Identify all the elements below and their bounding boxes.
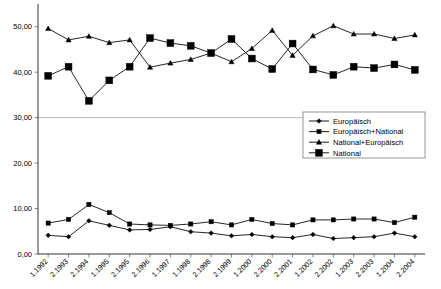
data-point-marker xyxy=(411,67,418,74)
y-tick-label: 0,00 xyxy=(17,250,32,259)
data-point-marker xyxy=(148,223,152,227)
y-tick-label: 40,00 xyxy=(13,68,32,77)
y-tick-label: 20,00 xyxy=(13,159,32,168)
x-tick-label: 1.2002 xyxy=(292,257,314,279)
data-point-marker xyxy=(250,217,254,221)
x-tick-label: 1.1997 xyxy=(150,257,172,279)
series-line xyxy=(48,204,415,225)
data-point-marker xyxy=(392,231,397,236)
line-chart: 0,0010,0020,0030,0040,0050,00 1.19922.19… xyxy=(0,0,441,289)
x-tick-label: 2.2001 xyxy=(272,257,294,279)
data-point-marker xyxy=(372,217,376,221)
data-point-marker xyxy=(372,234,377,239)
x-tick-label: 1.1998 xyxy=(170,257,192,279)
x-tick-label: 2.1999 xyxy=(211,257,233,279)
series-national-europ-isch xyxy=(46,23,418,69)
data-point-marker xyxy=(46,233,51,238)
data-point-marker xyxy=(316,149,323,156)
data-point-marker xyxy=(310,66,317,73)
data-point-marker xyxy=(269,66,276,73)
data-point-marker xyxy=(310,33,315,38)
data-point-marker xyxy=(168,223,172,227)
legend-label: Europäisch+National xyxy=(333,127,404,136)
data-point-marker xyxy=(66,217,70,221)
data-point-marker xyxy=(128,222,132,226)
data-point-marker xyxy=(187,42,194,49)
data-point-marker xyxy=(106,77,113,84)
data-point-marker xyxy=(392,221,396,225)
data-point-marker xyxy=(229,223,233,227)
data-point-marker xyxy=(311,232,316,237)
data-point-marker xyxy=(412,32,417,37)
data-point-marker xyxy=(209,231,214,236)
data-point-marker xyxy=(413,234,418,239)
x-tick-label: 1.1992 xyxy=(28,257,50,279)
data-point-marker xyxy=(147,35,154,42)
data-point-marker xyxy=(188,229,193,234)
data-point-marker xyxy=(331,23,336,28)
data-point-marker xyxy=(45,72,52,79)
x-tick-label: 2.2002 xyxy=(313,257,335,279)
y-tick-label: 50,00 xyxy=(13,22,32,31)
data-point-marker xyxy=(331,218,335,222)
data-point-marker xyxy=(270,221,274,225)
x-tick-label: 1.2000 xyxy=(231,257,253,279)
x-tick-label: 2.1993 xyxy=(48,257,70,279)
data-point-marker xyxy=(330,72,337,79)
data-point-marker xyxy=(46,26,51,31)
data-point-marker xyxy=(270,234,275,239)
data-point-marker xyxy=(107,223,112,228)
legend-label: National+Europäisch xyxy=(333,138,403,147)
y-tick-label: 10,00 xyxy=(13,204,32,213)
data-point-marker xyxy=(107,211,111,215)
y-axis-tick-labels: 0,0010,0020,0030,0040,0050,00 xyxy=(13,22,38,258)
data-point-marker xyxy=(317,130,321,134)
x-tick-label: 2.1994 xyxy=(68,257,90,279)
data-point-marker xyxy=(65,63,72,70)
data-point-marker xyxy=(87,202,91,206)
x-tick-label: 1.1995 xyxy=(89,257,111,279)
y-tick-label: 30,00 xyxy=(13,113,32,122)
data-point-marker xyxy=(352,217,356,221)
x-tick-label: 2.1998 xyxy=(191,257,213,279)
data-point-marker xyxy=(351,235,356,240)
data-point-marker xyxy=(228,36,235,43)
data-point-marker xyxy=(331,236,336,241)
chart-legend[interactable]: EuropäischEuropäisch+NationalNational+Eu… xyxy=(303,112,425,158)
x-tick-label: 2.2000 xyxy=(252,257,274,279)
data-point-marker xyxy=(290,235,295,240)
data-point-marker xyxy=(311,218,315,222)
x-tick-label: 1.2004 xyxy=(374,257,396,279)
x-tick-label: 2.2004 xyxy=(394,257,416,279)
x-tick-label: 2.2003 xyxy=(354,257,376,279)
data-point-marker xyxy=(46,221,50,225)
data-point-marker xyxy=(86,97,93,104)
series-line xyxy=(48,38,415,101)
data-point-marker xyxy=(86,34,91,39)
data-point-marker xyxy=(126,63,133,70)
data-point-marker xyxy=(189,222,193,226)
legend-item-national[interactable]: National xyxy=(309,149,361,158)
data-point-marker xyxy=(350,63,357,70)
data-point-marker xyxy=(127,37,132,42)
x-axis-tick-labels: 1.19922.19932.19941.19952.19952.19961.19… xyxy=(28,254,417,279)
x-tick-label: 2.1996 xyxy=(130,257,152,279)
data-point-marker xyxy=(229,59,234,64)
legend-label: National xyxy=(333,149,361,158)
data-point-marker xyxy=(250,232,255,237)
data-point-marker xyxy=(270,28,275,33)
data-point-marker xyxy=(248,55,255,62)
data-point-marker xyxy=(208,50,215,57)
data-point-marker xyxy=(291,223,295,227)
data-point-marker xyxy=(391,61,398,68)
data-point-marker xyxy=(413,215,417,219)
legend-label: Europäisch xyxy=(333,117,371,126)
data-point-marker xyxy=(371,65,378,72)
data-point-marker xyxy=(167,40,174,47)
data-point-marker xyxy=(127,228,132,233)
data-point-marker xyxy=(289,40,296,47)
x-tick-label: 1.2003 xyxy=(333,257,355,279)
series-national xyxy=(45,35,418,105)
data-point-marker xyxy=(209,220,213,224)
data-point-marker xyxy=(229,234,234,239)
